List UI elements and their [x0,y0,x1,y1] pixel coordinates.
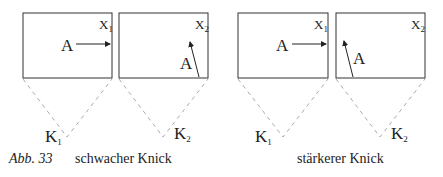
label-k1-weak: K1 [45,128,62,147]
cone-k2-strong [336,79,425,137]
label-a-x2-weak: A [180,55,192,72]
label-x1-weak: X1 [99,18,113,34]
caption-strong: stärkerer Knick [297,151,384,167]
vector-a-x2-strong [344,41,353,77]
cone-k1-weak [23,79,112,137]
label-k1-strong: K1 [255,128,272,147]
cone-k2-weak [119,79,208,137]
label-x1-strong: X1 [314,18,328,34]
label-x2-weak: X2 [195,18,209,34]
label-k2-strong: K2 [391,125,408,144]
caption-weak: schwacher Knick [75,151,172,167]
figure-number: Abb. 33 [9,151,53,167]
label-a-x1-strong: A [276,37,288,54]
label-a-x1-weak: A [61,37,73,54]
cone-k1-strong [238,79,328,137]
label-k2-weak: K2 [174,125,191,144]
label-a-x2-strong: A [353,50,365,67]
label-x2-strong: X2 [411,18,425,34]
